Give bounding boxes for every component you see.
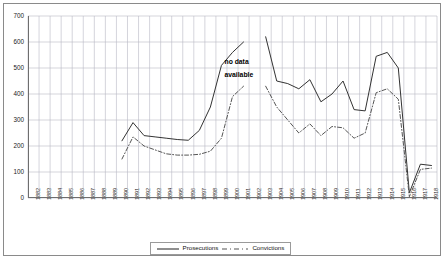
annotation-line: available bbox=[225, 69, 254, 82]
chart-legend: Prosecutions Convictions bbox=[150, 242, 291, 255]
chart-container: 0100200300400500600700 18821883188418851… bbox=[0, 0, 445, 259]
convictions-line-key bbox=[222, 246, 248, 252]
no-data-annotation: no dataavailable bbox=[225, 56, 254, 82]
legend-label-convictions: Convictions bbox=[252, 245, 284, 251]
data-series-layer bbox=[28, 16, 437, 198]
plot-area bbox=[28, 16, 437, 198]
annotation-line: no data bbox=[225, 56, 254, 69]
legend-label-prosecutions: Prosecutions bbox=[183, 245, 219, 251]
prosecutions-line-key bbox=[157, 246, 179, 252]
